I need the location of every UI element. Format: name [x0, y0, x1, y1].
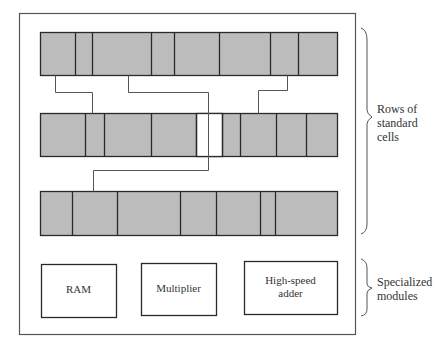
empty-cell	[197, 114, 223, 157]
multiplier-label: Multiplier	[141, 282, 216, 295]
rows-label-line3: cells	[377, 130, 418, 144]
specialized-modules-label: Specialized modules	[377, 275, 432, 303]
cell-row	[41, 33, 338, 76]
modules-label-line1: Specialized	[377, 275, 432, 289]
high-speed-adder-label: High-speed adder	[244, 274, 337, 300]
rows-label-line2: standard	[377, 116, 418, 130]
cell-row	[41, 192, 338, 236]
adder-label-line1: High-speed	[244, 274, 337, 287]
row-3-standard-cells	[41, 192, 338, 236]
rows-label-line1: Rows of	[377, 102, 418, 116]
wire-3	[259, 76, 288, 114]
wire-1	[56, 76, 93, 114]
rows-of-standard-cells-label: Rows of standard cells	[377, 102, 418, 144]
adder-label-line2: adder	[244, 287, 337, 300]
modules-label-line2: modules	[377, 289, 432, 303]
modules-brace	[361, 259, 372, 316]
row-2-standard-cells	[41, 114, 338, 157]
row-1-standard-cells	[41, 33, 338, 76]
rows-brace	[361, 28, 372, 234]
ram-label: RAM	[41, 283, 116, 296]
